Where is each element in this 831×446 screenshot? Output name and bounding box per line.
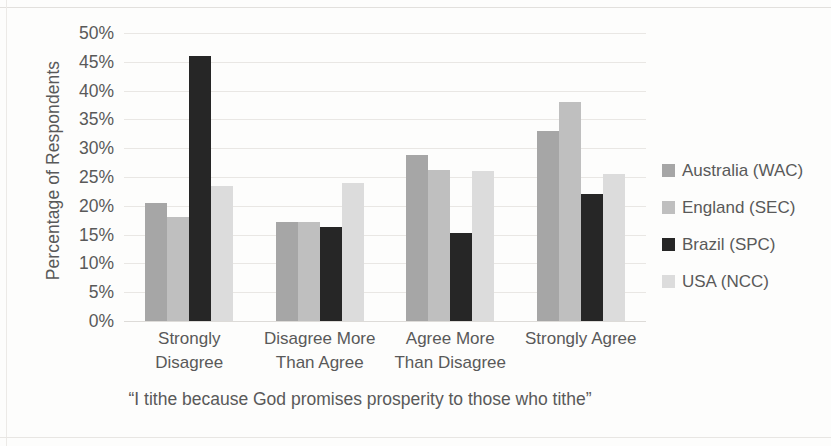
bar: [581, 194, 603, 321]
y-axis-tick-label: 20%: [48, 197, 114, 215]
legend-swatch-icon: [662, 201, 675, 214]
bar: [450, 233, 472, 321]
chart-legend: Australia (WAC)England (SEC)Brazil (SPC)…: [662, 152, 828, 300]
y-axis-tick-label: 15%: [48, 226, 114, 244]
legend-swatch-icon: [662, 238, 675, 251]
legend-swatch-icon: [662, 275, 675, 288]
bar: [342, 183, 364, 321]
bar: [428, 170, 450, 321]
bar-group: [124, 33, 255, 321]
scan-edge-left: [6, 0, 7, 446]
legend-item[interactable]: USA (NCC): [662, 263, 828, 300]
bar-group: [255, 33, 386, 321]
bar: [298, 222, 320, 321]
x-axis-tick-label-line: Strongly: [124, 327, 255, 351]
grouped-bar-chart: Percentage of Respondents 0%5%10%15%20%2…: [0, 0, 831, 446]
x-axis-title: “I tithe because God promises prosperity…: [60, 389, 660, 410]
x-axis-tick-label-line: Than Agree: [255, 351, 386, 375]
bar: [406, 155, 428, 321]
legend-item[interactable]: Brazil (SPC): [662, 226, 828, 263]
scan-edge-bottom: [0, 437, 831, 438]
x-axis-tick-label-line: Than Disagree: [385, 351, 516, 375]
y-axis-tick-labels: 0%5%10%15%20%25%30%35%40%45%50%: [48, 24, 114, 320]
y-axis-tick-label: 25%: [48, 168, 114, 186]
bar: [559, 102, 581, 321]
y-axis-tick-label: 50%: [48, 24, 114, 42]
x-axis-tick-label: StronglyDisagree: [124, 327, 255, 375]
bar: [276, 222, 298, 321]
gridline: [124, 321, 646, 322]
legend-item[interactable]: England (SEC): [662, 189, 828, 226]
y-axis-tick-label: 30%: [48, 139, 114, 157]
x-axis-tick-label-line: Agree More: [385, 327, 516, 351]
bar: [211, 186, 233, 321]
bar: [167, 217, 189, 321]
x-axis-tick-label: Disagree MoreThan Agree: [255, 327, 386, 375]
y-axis-tick-label: 10%: [48, 254, 114, 272]
x-axis-tick-label: Agree MoreThan Disagree: [385, 327, 516, 375]
x-axis-tick-label-line: Disagree: [124, 351, 255, 375]
scan-edge-top: [0, 7, 831, 8]
legend-label: Australia (WAC): [682, 161, 803, 181]
bar-group: [385, 33, 516, 321]
legend-swatch-icon: [662, 164, 675, 177]
x-axis-tick-label-line: Strongly Agree: [516, 327, 647, 351]
bar: [189, 56, 211, 321]
bar: [320, 227, 342, 321]
y-axis-tick-label: 0%: [48, 312, 114, 330]
x-axis-tick-labels: StronglyDisagreeDisagree MoreThan AgreeA…: [124, 327, 646, 383]
legend-label: USA (NCC): [682, 272, 769, 292]
y-axis-tick-label: 45%: [48, 53, 114, 71]
bar-group: [516, 33, 647, 321]
bar: [603, 174, 625, 321]
x-axis-tick-label: Strongly Agree: [516, 327, 647, 351]
legend-label: Brazil (SPC): [682, 235, 776, 255]
legend-label: England (SEC): [682, 198, 795, 218]
x-axis-tick-label-line: Disagree More: [255, 327, 386, 351]
plot-area: [124, 33, 646, 321]
legend-item[interactable]: Australia (WAC): [662, 152, 828, 189]
bar: [472, 171, 494, 321]
y-axis-tick-label: 40%: [48, 82, 114, 100]
bar: [145, 203, 167, 321]
bar: [537, 131, 559, 321]
y-axis-tick-label: 35%: [48, 110, 114, 128]
y-axis-tick-label: 5%: [48, 283, 114, 301]
